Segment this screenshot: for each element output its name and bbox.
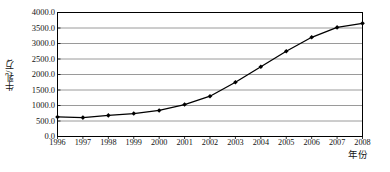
chart-figure: 牛乳/万t 0.0500.01000.01500.02000.02500.030…: [0, 0, 390, 172]
x-tick-label: 2008: [348, 138, 378, 147]
x-axis-title: 年份: [348, 150, 368, 161]
